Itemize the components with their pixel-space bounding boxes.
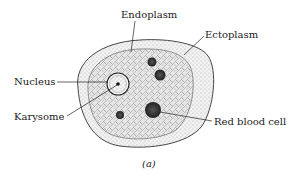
- label-endoplasm: Endoplasm: [121, 9, 177, 21]
- food-vacuole: [116, 111, 124, 119]
- figure-caption: (a): [142, 158, 156, 170]
- label-nucleus: Nucleus: [14, 76, 55, 88]
- label-ectoplasm: Ectoplasm: [205, 29, 258, 41]
- label-red-blood-cell: Red blood cell: [214, 116, 286, 128]
- nucleus: [107, 73, 129, 95]
- endoplasm-region: [88, 49, 193, 139]
- cell-diagram: [0, 0, 298, 177]
- red-blood-cell: [145, 102, 161, 118]
- food-vacuole: [155, 70, 166, 81]
- food-vacuole: [148, 58, 157, 67]
- label-karysome: Karysome: [14, 111, 64, 123]
